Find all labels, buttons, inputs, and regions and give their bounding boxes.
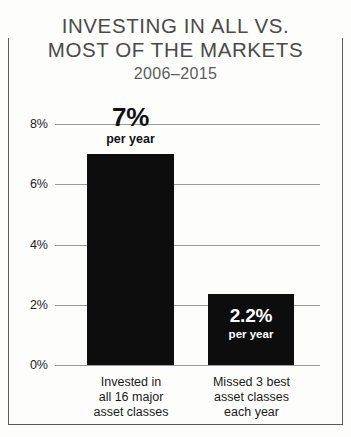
value-label-bar-1: 7% <box>86 104 175 130</box>
value-label-bar-2: 2.2% <box>208 306 294 326</box>
value-sublabel-bar-2: per year <box>208 328 294 340</box>
category-label-2: Missed 3 best asset classes each year <box>194 375 309 420</box>
value-sublabel-bar-1: per year <box>86 133 175 146</box>
value-callout-bar-1: 7% per year <box>86 104 175 146</box>
category-label-2-line-3: each year <box>194 405 309 420</box>
value-callout-bar-2: 2.2% per year <box>208 306 294 340</box>
category-label-1-line-1: Invested in <box>75 375 187 390</box>
ytick-label-6: 6% <box>0 178 48 190</box>
gridline-0 <box>55 365 320 366</box>
category-label-2-line-2: asset classes <box>194 390 309 405</box>
bar-invested-all-asset-classes <box>87 154 174 365</box>
chart-screenshot: INVESTING IN ALL VS. MOST OF THE MARKETS… <box>0 0 351 437</box>
ytick-label-0: 0% <box>0 359 48 371</box>
ytick-label-4: 4% <box>0 239 48 251</box>
category-label-1: Invested in all 16 major asset classes <box>75 375 187 420</box>
category-label-1-line-3: asset classes <box>75 405 187 420</box>
ytick-label-8: 8% <box>0 118 48 130</box>
ytick-label-2: 2% <box>0 299 48 311</box>
category-label-2-line-1: Missed 3 best <box>194 375 309 390</box>
plot-area: 0% 2% 4% 6% 8% 7% per year 2.2% per year… <box>0 0 351 437</box>
category-label-1-line-2: all 16 major <box>75 390 187 405</box>
